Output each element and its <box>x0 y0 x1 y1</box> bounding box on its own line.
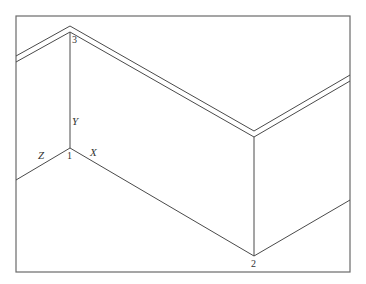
roof-line-inner <box>16 32 350 137</box>
vertex-label-1: 1 <box>67 151 72 161</box>
right-edge-line <box>254 200 350 256</box>
vertex-label-2: 2 <box>251 259 256 269</box>
roof-line-outer <box>16 26 350 131</box>
vertex-label-3: 3 <box>72 35 77 45</box>
diagram-canvas <box>0 0 366 284</box>
frame-border <box>16 16 350 272</box>
x-axis-line <box>70 148 254 256</box>
axis-label-z: Z <box>38 150 44 161</box>
axis-label-y: Y <box>72 116 78 127</box>
axis-label-x: X <box>90 147 97 158</box>
